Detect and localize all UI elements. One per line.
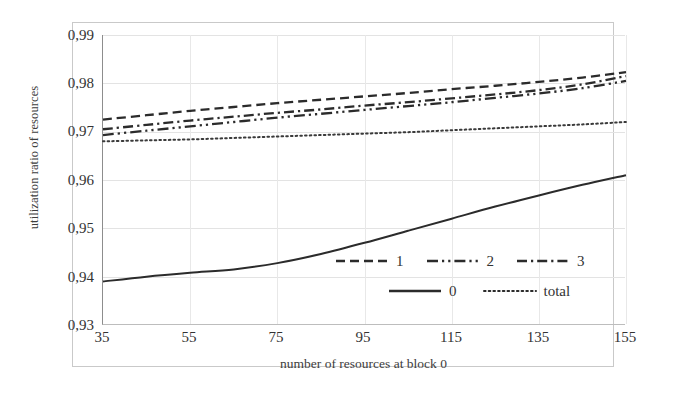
legend-item-1[interactable]: 1	[335, 254, 404, 269]
legend-swatch-dotted-icon	[483, 286, 537, 296]
series-line-total	[103, 122, 626, 141]
y-tick-label: 0,99	[68, 28, 94, 43]
y-tick-label: 0,98	[68, 76, 94, 91]
y-axis-title: utilization ratio of resources	[27, 48, 42, 268]
x-axis-title: number of resources at block 0	[102, 356, 625, 372]
series-line-3	[103, 76, 626, 129]
chart-legend: 1 2 3 0 total	[335, 246, 630, 306]
legend-label: 3	[577, 254, 585, 269]
x-tick-label: 75	[251, 330, 301, 345]
legend-item-2[interactable]: 2	[426, 254, 495, 269]
legend-item-3[interactable]: 3	[516, 254, 585, 269]
legend-row: 1 2 3	[335, 246, 630, 276]
x-tick-label: 115	[426, 330, 476, 345]
x-tick-label: 35	[77, 330, 127, 345]
legend-label: 2	[487, 254, 495, 269]
legend-item-0[interactable]: 0	[388, 284, 457, 299]
x-tick-label: 155	[600, 330, 650, 345]
legend-swatch-dash-dot-icon	[516, 256, 570, 266]
legend-row: 0 total	[335, 276, 630, 306]
y-tick-label: 0,95	[68, 221, 94, 236]
legend-item-total[interactable]: total	[483, 284, 571, 299]
legend-swatch-solid-icon	[388, 286, 442, 296]
legend-swatch-dash-dot-dot-icon	[426, 256, 480, 266]
series-line-1	[103, 72, 626, 119]
y-tick-label: 0,97	[68, 124, 94, 139]
x-tick-label: 135	[513, 330, 563, 345]
legend-label: 0	[449, 284, 457, 299]
legend-label: 1	[396, 254, 404, 269]
x-tick-label: 55	[164, 330, 214, 345]
x-tick-label: 95	[338, 330, 388, 345]
legend-swatch-dashed-icon	[335, 256, 389, 266]
legend-label: total	[544, 284, 571, 299]
y-tick-label: 0,96	[68, 173, 94, 188]
y-tick-label: 0,94	[68, 270, 94, 285]
